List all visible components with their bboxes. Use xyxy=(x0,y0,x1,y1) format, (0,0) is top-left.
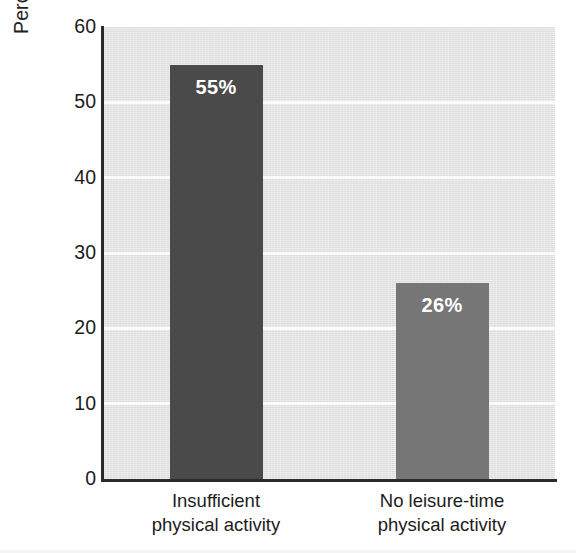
x-axis-line xyxy=(101,479,557,482)
y-tick-label-30: 30 xyxy=(44,243,96,263)
y-axis-line xyxy=(101,26,104,481)
x-category-label-0-line-0: Insufficient xyxy=(111,489,321,513)
y-tick-label-0: 0 xyxy=(44,469,96,489)
bar-chart-figure: Percent (%) of adults in the United Stat… xyxy=(0,0,576,553)
x-category-label-1-line-1: physical activity xyxy=(337,513,547,537)
x-category-label-0: Insufficient physical activity xyxy=(111,489,321,536)
bar-value-label-0: 55% xyxy=(170,76,263,99)
bar-no-leisure-time-physical-activity[interactable]: 26% xyxy=(396,283,489,479)
x-category-label-1: No leisure-time physical activity xyxy=(337,489,547,536)
y-tick-label-50: 50 xyxy=(44,93,96,113)
y-tick-label-20: 20 xyxy=(44,319,96,339)
x-category-label-1-line-0: No leisure-time xyxy=(337,489,547,513)
y-axis-tick-labels: 60 50 40 30 20 10 0 xyxy=(44,27,96,479)
x-axis-category-labels: Insufficient physical activity No leisur… xyxy=(103,489,555,549)
y-tick-label-40: 40 xyxy=(44,168,96,188)
y-tick-label-60: 60 xyxy=(44,17,96,37)
bar-insufficient-physical-activity[interactable]: 55% xyxy=(170,65,263,479)
y-axis-title: Percent (%) of adults in the United Stat… xyxy=(0,0,42,79)
x-category-label-0-line-1: physical activity xyxy=(111,513,321,537)
y-tick-label-10: 10 xyxy=(44,394,96,414)
bar-value-label-1: 26% xyxy=(396,294,489,317)
plot-area: 55% 26% xyxy=(103,27,555,479)
